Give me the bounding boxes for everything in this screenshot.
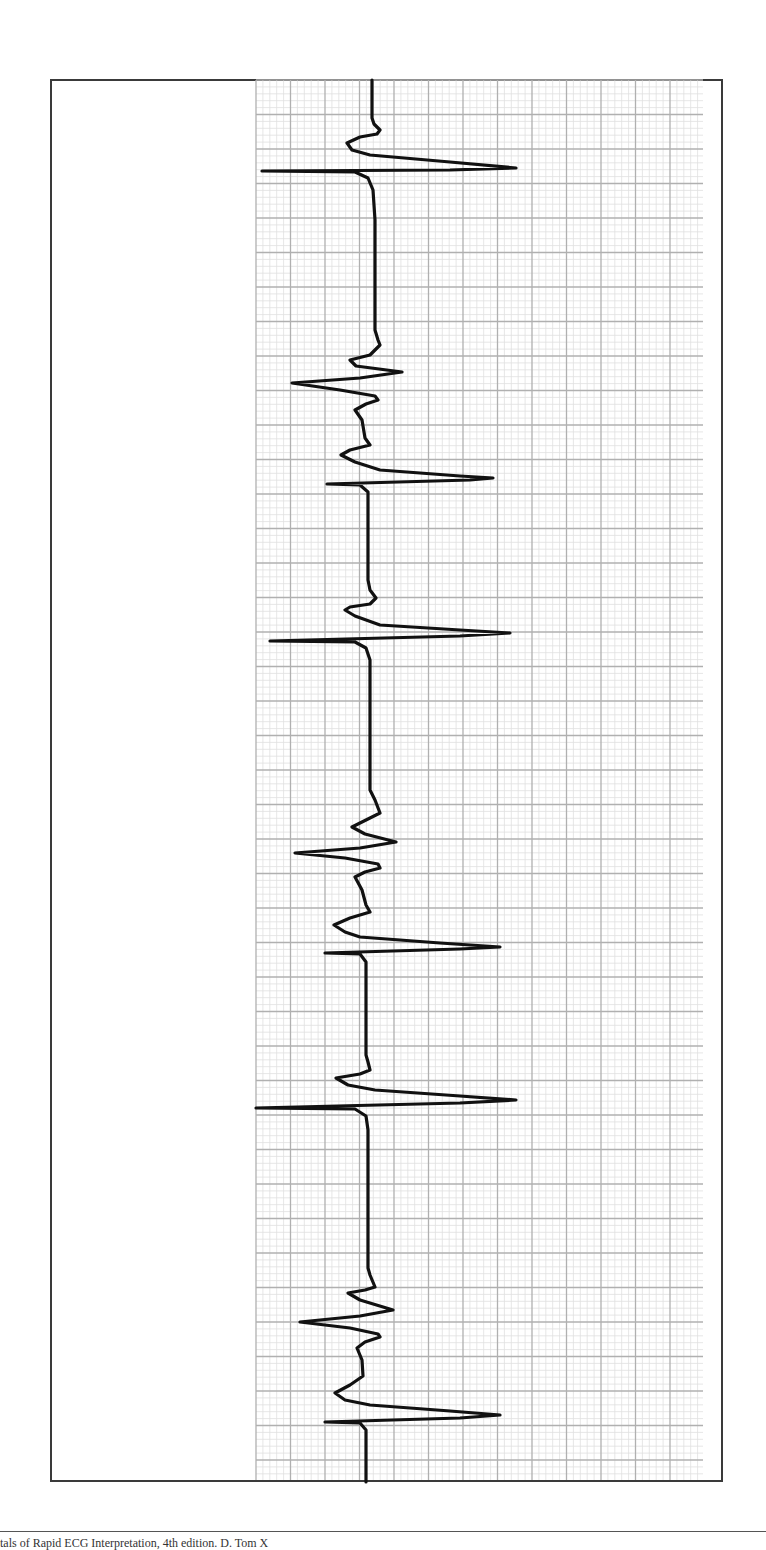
footer-divider [0, 1531, 766, 1532]
footer-caption: tals of Rapid ECG Interpretation, 4th ed… [0, 1536, 766, 1550]
grid-major-lines [256, 80, 703, 1480]
